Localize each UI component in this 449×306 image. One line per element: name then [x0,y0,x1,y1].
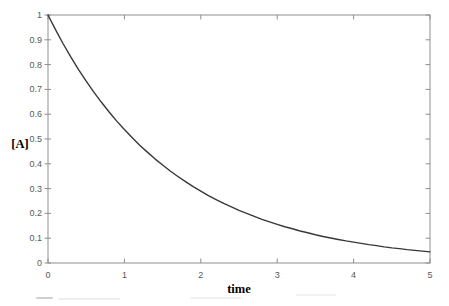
y-tick-label: 0.7 [29,84,42,94]
y-tick-label: 1 [37,10,42,20]
cropped-caption-remnant [36,297,53,299]
plot-frame-layer [48,15,430,263]
y-tick-label: 0.3 [29,184,42,194]
cropped-caption-remnant [190,297,242,299]
x-axis-label: time [227,282,251,296]
chart-figure: 10.90.80.70.60.50.40.30.20.10012345 time… [0,0,449,306]
decay-curve [48,15,430,252]
y-tick-label: 0.2 [29,208,42,218]
y-tick-label: 0.8 [29,60,42,70]
x-tick-label: 0 [45,270,50,280]
x-tick-label: 5 [427,270,432,280]
decay-line-chart: 10.90.80.70.60.50.40.30.20.10012345 time… [0,0,449,306]
data-series-layer [48,15,430,252]
y-tick-label: 0 [37,258,42,268]
y-axis-label: [A] [11,137,28,151]
y-tick-label: 0.9 [29,35,42,45]
x-tick-label: 3 [275,270,280,280]
y-tick-label: 0.1 [29,233,42,243]
x-tick-label: 1 [122,270,127,280]
y-tick-label: 0.4 [29,159,42,169]
y-tick-label: 0.5 [29,134,42,144]
y-tick-label: 0.6 [29,109,42,119]
cropped-caption-remnant [296,294,336,296]
tick-marks-layer [45,15,431,263]
cropped-caption-remnant [58,298,120,300]
plot-frame [48,15,430,263]
x-tick-label: 4 [351,270,356,280]
x-tick-label: 2 [198,270,203,280]
tick-labels-layer: 10.90.80.70.60.50.40.30.20.10012345 [29,10,432,280]
